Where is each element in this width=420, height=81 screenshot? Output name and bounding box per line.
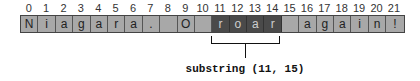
char-cell: a bbox=[299, 16, 316, 32]
char-cell: a bbox=[125, 16, 142, 32]
index-label: 17 bbox=[316, 2, 333, 14]
char-cell-highlighted: a bbox=[247, 16, 264, 32]
index-label: 10 bbox=[194, 2, 211, 14]
index-label: 19 bbox=[350, 2, 367, 14]
index-label: 21 bbox=[385, 2, 402, 14]
index-label: 2 bbox=[55, 2, 72, 14]
index-label: 3 bbox=[72, 2, 89, 14]
char-cell-highlighted: o bbox=[230, 16, 247, 32]
index-label: 8 bbox=[159, 2, 176, 14]
char-cell: a bbox=[334, 16, 351, 32]
char-cell: a bbox=[56, 16, 73, 32]
char-cell: ! bbox=[386, 16, 403, 32]
substring-label: substring (11, 15) bbox=[150, 63, 340, 75]
index-label: 5 bbox=[107, 2, 124, 14]
index-label: 4 bbox=[90, 2, 107, 14]
index-label: 16 bbox=[298, 2, 315, 14]
index-label: 1 bbox=[37, 2, 54, 14]
index-label: 20 bbox=[368, 2, 385, 14]
char-cell: N bbox=[21, 16, 38, 32]
index-label: 0 bbox=[20, 2, 37, 14]
char-cell: a bbox=[91, 16, 108, 32]
char-cell: O bbox=[178, 16, 195, 32]
char-cell: r bbox=[108, 16, 125, 32]
char-cell: i bbox=[351, 16, 368, 32]
char-cell bbox=[282, 16, 299, 32]
string-strip: N i a g a r a . O r o a r a g a i n ! bbox=[20, 15, 405, 33]
char-cell: n bbox=[369, 16, 386, 32]
index-label: 6 bbox=[124, 2, 141, 14]
index-label: 13 bbox=[246, 2, 263, 14]
index-row: 0 1 2 3 4 5 6 7 8 9 10 11 12 13 14 15 16… bbox=[20, 2, 403, 14]
index-label: 12 bbox=[229, 2, 246, 14]
char-cell bbox=[195, 16, 212, 32]
char-cell: . bbox=[143, 16, 160, 32]
index-label: 7 bbox=[142, 2, 159, 14]
index-label: 11 bbox=[211, 2, 228, 14]
bracket-stem bbox=[245, 44, 246, 58]
char-cell-highlighted: r bbox=[264, 16, 281, 32]
char-cell bbox=[160, 16, 177, 32]
char-cell: g bbox=[317, 16, 334, 32]
index-label: 9 bbox=[177, 2, 194, 14]
char-cell: g bbox=[73, 16, 90, 32]
substring-bracket bbox=[211, 36, 280, 44]
char-cell: i bbox=[38, 16, 55, 32]
index-label: 14 bbox=[263, 2, 280, 14]
index-label: 15 bbox=[281, 2, 298, 14]
char-cell-highlighted: r bbox=[212, 16, 229, 32]
index-label: 18 bbox=[333, 2, 350, 14]
